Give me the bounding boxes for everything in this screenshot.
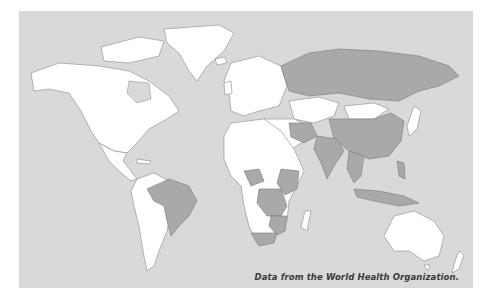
iceland [215,57,227,65]
caribbean [137,159,151,164]
map-panel: Data from the World Health Organization. [19,11,473,288]
indonesia [354,189,419,206]
australia [384,211,444,261]
tasmania [424,265,430,271]
europe [224,56,287,116]
arctic-islands [101,37,164,63]
madagascar [301,211,311,231]
philippines [397,161,405,179]
world-map [19,11,473,288]
japan [407,106,421,136]
greenland [164,25,234,81]
north-america [31,63,179,153]
new-zealand [452,251,464,273]
russia [281,49,459,101]
uk [224,81,232,95]
south-africa [251,233,277,246]
data-source-caption: Data from the World Health Organization. [255,272,459,282]
southeast-asia [347,151,364,183]
